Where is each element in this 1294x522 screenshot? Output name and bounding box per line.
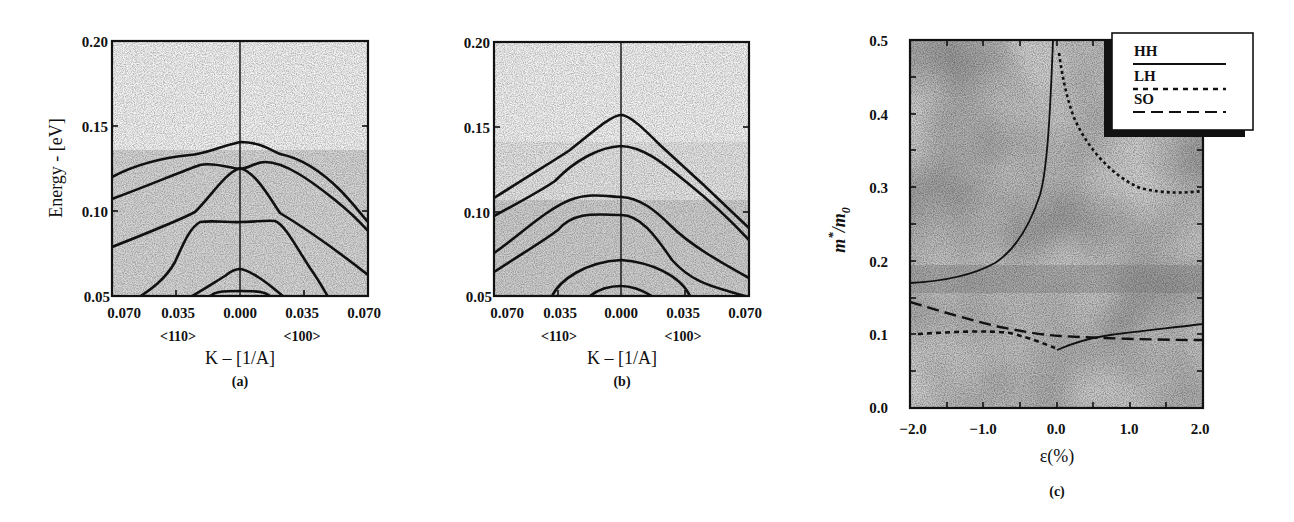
svg-text:0.3: 0.3: [869, 180, 888, 196]
panel-a-ylabel: Energy - [eV]: [46, 118, 66, 218]
svg-text:0.20: 0.20: [464, 35, 490, 51]
svg-text:0.05: 0.05: [84, 289, 110, 305]
panel-a-direction-right: <100>: [284, 329, 321, 344]
svg-text:0.05: 0.05: [466, 289, 492, 305]
legend-label-lh: LH: [1134, 68, 1156, 84]
panel-c-xticks: −2.0 −1.0 0.0 1.0 2.0: [899, 421, 1209, 437]
panel-a: 0.20 0.15 0.10 0.05 0.070 0.035 0.000 0.…: [46, 34, 381, 390]
panel-a-caption: (a): [232, 374, 249, 390]
svg-text:0.5: 0.5: [869, 33, 888, 49]
svg-text:1.0: 1.0: [1120, 421, 1139, 437]
panel-b-caption: (b): [613, 374, 630, 390]
svg-text:0.15: 0.15: [464, 120, 490, 136]
svg-text:0.035: 0.035: [285, 305, 319, 321]
svg-text:−2.0: −2.0: [899, 421, 926, 437]
svg-text:2.0: 2.0: [1191, 421, 1210, 437]
svg-text:0.1: 0.1: [869, 327, 888, 343]
svg-text:0.10: 0.10: [82, 204, 108, 220]
figure-canvas: 0.20 0.15 0.10 0.05 0.070 0.035 0.000 0.…: [0, 0, 1294, 522]
panel-c-yticks: 0.5 0.4 0.3 0.2 0.1 0.0: [869, 33, 888, 416]
svg-text:0.0: 0.0: [1047, 421, 1066, 437]
svg-text:0.000: 0.000: [604, 305, 638, 321]
legend-label-hh: HH: [1134, 43, 1158, 59]
svg-text:0.20: 0.20: [82, 34, 108, 50]
svg-text:0.070: 0.070: [490, 305, 524, 321]
panel-c-ylabel: m*/m0: [825, 207, 853, 253]
panel-a-direction-left: <110>: [160, 329, 196, 344]
svg-text:0.2: 0.2: [869, 254, 888, 270]
panel-b-xticks: 0.070 0.035 0.000 0.035 0.070: [490, 305, 762, 321]
svg-text:0.4: 0.4: [869, 107, 888, 123]
panel-a-xticks: 0.070 0.035 0.000 0.035 0.070: [107, 305, 381, 321]
svg-text:0.070: 0.070: [728, 305, 762, 321]
panel-a-xlabel: K – [1/A]: [205, 348, 275, 368]
svg-text:0.0: 0.0: [869, 400, 888, 416]
svg-text:0.070: 0.070: [347, 305, 381, 321]
svg-text:0.035: 0.035: [543, 305, 577, 321]
panel-b-direction-right: <100>: [665, 329, 702, 344]
panel-b-yticks: 0.20 0.15 0.10 0.05: [464, 35, 492, 305]
panel-c-legend: HH LH SO: [1104, 33, 1253, 137]
svg-text:0.10: 0.10: [464, 205, 490, 221]
svg-text:0.070: 0.070: [107, 305, 141, 321]
svg-text:0.000: 0.000: [223, 305, 257, 321]
svg-text:0.15: 0.15: [82, 119, 108, 135]
panel-b: 0.20 0.15 0.10 0.05 0.070 0.035 0.000 0.…: [464, 35, 762, 390]
panel-c: 0.5 0.4 0.3 0.2 0.1 0.0 −2.0 −1.0 0.0 1.…: [825, 33, 1253, 500]
panel-a-yticks: 0.20 0.15 0.10 0.05: [82, 34, 110, 305]
svg-text:−1.0: −1.0: [969, 421, 996, 437]
panel-b-direction-left: <110>: [541, 329, 577, 344]
svg-text:0.035: 0.035: [666, 305, 700, 321]
panel-c-caption: (c): [1049, 484, 1065, 500]
legend-label-so: SO: [1134, 91, 1154, 107]
panel-c-xlabel: ε(%): [1040, 446, 1075, 467]
panel-b-xlabel: K – [1/A]: [587, 348, 657, 368]
svg-text:0.035: 0.035: [161, 305, 195, 321]
svg-text:m*/m0: m*/m0: [825, 207, 853, 253]
